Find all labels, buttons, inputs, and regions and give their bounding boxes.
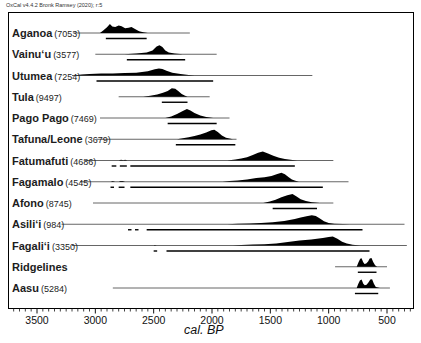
site-label: Tula(9497) bbox=[12, 89, 62, 105]
site-label: Ridgelines bbox=[12, 259, 70, 275]
site-name: Utumea bbox=[12, 70, 52, 82]
site-name: Tula bbox=[12, 91, 34, 103]
site-name: Vainuʻu bbox=[12, 48, 51, 60]
probability-distribution bbox=[143, 88, 187, 97]
site-name: Fagaliʻi bbox=[12, 240, 50, 252]
site-name: Fagamalo bbox=[12, 176, 63, 188]
site-lab-number: (3679) bbox=[85, 135, 111, 145]
site-name: Tafuna/Leone bbox=[12, 133, 83, 145]
site-lab-number: (9497) bbox=[36, 93, 62, 103]
site-lab-number: (4545) bbox=[65, 178, 91, 188]
site-lab-number: (3577) bbox=[53, 50, 79, 60]
x-tick-label: 1500 bbox=[250, 314, 290, 326]
site-lab-number: (984) bbox=[43, 220, 64, 230]
site-name: Asiliʻi bbox=[12, 218, 41, 230]
site-label: Vainuʻu(3577) bbox=[12, 46, 79, 62]
probability-distribution bbox=[263, 194, 320, 203]
probability-distribution bbox=[227, 215, 350, 224]
site-label: Utumea(7254) bbox=[12, 68, 80, 84]
x-tick-label: 2500 bbox=[134, 314, 174, 326]
site-lab-number: (3350) bbox=[52, 242, 78, 252]
site-lab-number: (7254) bbox=[54, 72, 80, 82]
site-lab-number: (7053) bbox=[54, 29, 80, 39]
site-label: Fagaliʻi(3350) bbox=[12, 238, 78, 254]
site-lab-number: (7469) bbox=[71, 114, 97, 124]
probability-distribution bbox=[154, 237, 361, 246]
probability-distribution bbox=[165, 109, 213, 118]
site-label: Aganoa(7053) bbox=[12, 25, 80, 41]
site-label: Asiliʻi(984) bbox=[12, 216, 64, 232]
site-name: Pago Pago bbox=[12, 112, 69, 124]
site-name: Aasu bbox=[12, 282, 39, 294]
site-name: Fatumafuti bbox=[12, 155, 68, 167]
site-lab-number: (5284) bbox=[41, 284, 67, 294]
site-label: Tafuna/Leone(3679) bbox=[12, 131, 111, 147]
site-label: Fagamalo(4545) bbox=[12, 174, 91, 190]
site-lab-number: (8745) bbox=[46, 199, 72, 209]
site-lab-number: (4686) bbox=[70, 157, 96, 167]
site-label: Pago Pago(7469) bbox=[12, 110, 97, 126]
site-name: Ridgelines bbox=[12, 261, 68, 273]
probability-distribution bbox=[177, 130, 233, 140]
probability-distribution bbox=[119, 152, 298, 161]
x-tick-label: 1000 bbox=[309, 314, 349, 326]
site-label: Fatumafuti(4686) bbox=[12, 153, 96, 169]
site-name: Aganoa bbox=[12, 27, 52, 39]
site-label: Afono(8745) bbox=[12, 195, 72, 211]
probability-distribution bbox=[357, 258, 377, 267]
probability-distribution bbox=[111, 173, 299, 182]
probability-distribution bbox=[125, 45, 183, 54]
x-axis-title: cal. BP bbox=[184, 323, 224, 337]
probability-distribution bbox=[357, 279, 380, 288]
x-tick-label: 500 bbox=[367, 314, 407, 326]
site-label: Aasu(5284) bbox=[12, 280, 67, 296]
x-tick-label: 3500 bbox=[17, 314, 57, 326]
probability-distribution bbox=[100, 24, 148, 33]
probability-distribution bbox=[74, 68, 194, 75]
x-tick-label: 3000 bbox=[75, 314, 115, 326]
site-name: Afono bbox=[12, 197, 44, 209]
oxcal-multiplot-figure: OxCal v4.4.2 Bronk Ramsey (2020); r:5 Ag… bbox=[0, 0, 421, 343]
